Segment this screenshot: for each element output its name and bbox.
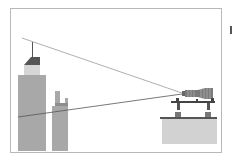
roof-icon	[24, 57, 40, 65]
support-right	[207, 103, 210, 110]
diagram-scene	[0, 0, 232, 162]
platform	[160, 117, 217, 144]
platform-block	[162, 119, 217, 144]
telescope	[182, 88, 213, 99]
building-body	[52, 106, 68, 151]
edge-marker	[230, 26, 232, 34]
support-right-foot	[205, 112, 211, 117]
tower-body	[18, 75, 46, 151]
mount-rail	[171, 98, 215, 117]
support-left	[177, 103, 180, 110]
rail-clamp-left	[176, 98, 179, 102]
platform-top	[160, 117, 217, 119]
building-crown	[24, 65, 40, 75]
telescope-eyepiece	[182, 91, 185, 96]
tall-building	[18, 42, 46, 151]
building-ledge	[55, 103, 68, 106]
short-building	[52, 91, 68, 151]
support-left-foot	[175, 112, 181, 117]
rail-clamp-center	[196, 99, 198, 102]
telescope-body-icon	[185, 88, 213, 99]
rail-clamp-right	[211, 98, 214, 102]
